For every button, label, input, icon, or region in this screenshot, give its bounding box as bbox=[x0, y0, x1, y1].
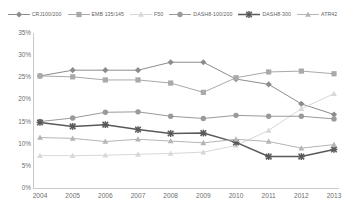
x-axis-tick-label: 2007 bbox=[123, 191, 153, 200]
series-plot bbox=[0, 0, 345, 216]
x-axis-tick-label: 2011 bbox=[254, 191, 284, 200]
x-axis-tick-label: 2005 bbox=[58, 191, 88, 200]
x-axis-tick-label: 2010 bbox=[221, 191, 251, 200]
x-axis-tick-label: 2006 bbox=[90, 191, 120, 200]
x-axis-tick-label: 2004 bbox=[25, 191, 55, 200]
series-dash8-100-200 bbox=[37, 109, 336, 124]
series-atr42 bbox=[37, 135, 337, 151]
line-chart: CRJ100/200EMB 135/145F50DASH8-100/200DAS… bbox=[0, 0, 345, 216]
x-axis-tick-label: 2012 bbox=[286, 191, 316, 200]
series-f50 bbox=[37, 91, 337, 158]
x-axis-tick-label: 2013 bbox=[319, 191, 345, 200]
x-axis-labels: 2004200520062007200820092010201120122013 bbox=[33, 191, 339, 205]
x-axis-tick-label: 2008 bbox=[156, 191, 186, 200]
x-axis-tick-label: 2009 bbox=[188, 191, 218, 200]
series-crj100-200 bbox=[37, 59, 337, 117]
series-emb-135-145 bbox=[37, 68, 336, 94]
